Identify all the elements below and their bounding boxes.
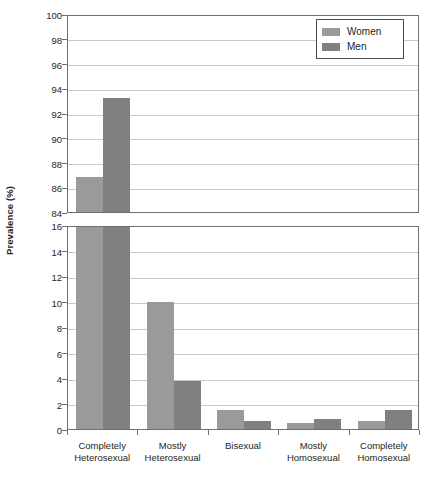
x-tick-mark <box>278 430 279 435</box>
y-tick-mark <box>62 404 67 405</box>
x-category-label-line: Heterosexual <box>137 452 207 464</box>
y-tick-mark <box>62 114 67 115</box>
y-tick-label: 2 <box>22 400 62 410</box>
y-tick-mark <box>62 302 67 303</box>
y-tick-label: 10 <box>22 298 62 308</box>
y-tick-label: 90 <box>22 134 62 144</box>
x-tick-mark <box>67 430 68 435</box>
x-tick-mark <box>137 430 138 435</box>
bar-men-4 <box>385 410 412 429</box>
y-tick-mark <box>62 89 67 90</box>
gridline <box>68 90 418 91</box>
legend-item-men: Men <box>322 39 398 54</box>
x-category-label-2: Bisexual <box>208 440 278 452</box>
y-tick-label: 8 <box>22 324 62 334</box>
x-category-label-line: Mostly <box>278 440 348 452</box>
x-category-label-line: Homosexual <box>349 452 419 464</box>
x-category-label-line: Heterosexual <box>67 452 137 464</box>
x-tick-mark <box>349 430 350 435</box>
legend-item-women: Women <box>322 24 398 39</box>
y-tick-label: 16 <box>22 222 62 232</box>
y-tick-label: 94 <box>22 85 62 95</box>
bar-women-1 <box>147 302 174 430</box>
y-tick-label: 88 <box>22 159 62 169</box>
x-category-label-4: CompletelyHomosexual <box>349 440 419 463</box>
bar-women-0 <box>76 177 103 212</box>
y-axis-title: Prevalence (%) <box>0 0 18 440</box>
gridline <box>68 65 418 66</box>
y-tick-mark <box>62 15 67 16</box>
y-tick-mark <box>62 39 67 40</box>
x-category-label-0: CompletelyHeterosexual <box>67 440 137 463</box>
x-category-label-line: Completely <box>67 440 137 452</box>
bar-men-3 <box>314 419 341 429</box>
y-tick-mark <box>62 163 67 164</box>
bar-men-1 <box>174 381 201 429</box>
legend: Women Men <box>316 19 404 59</box>
x-category-label-1: MostlyHeterosexual <box>137 440 207 463</box>
y-axis-title-text: Prevalence (%) <box>4 186 15 255</box>
y-tick-mark <box>62 277 67 278</box>
y-tick-mark <box>62 251 67 252</box>
chart-figure: Prevalence (%) Women Men 848688909294969… <box>0 0 427 480</box>
bar-men-2 <box>244 421 271 429</box>
x-category-label-line: Homosexual <box>278 452 348 464</box>
y-tick-label: 4 <box>22 375 62 385</box>
bar-men-0 <box>103 226 130 429</box>
y-tick-mark <box>62 64 67 65</box>
lower-plot-panel <box>67 226 419 430</box>
y-tick-label: 0 <box>22 426 62 436</box>
y-tick-label: 100 <box>22 11 62 21</box>
x-category-label-line: Mostly <box>137 440 207 452</box>
legend-label-men: Men <box>347 41 366 52</box>
y-tick-label: 84 <box>22 209 62 219</box>
legend-swatch-men-icon <box>322 43 340 51</box>
x-category-label-line: Bisexual <box>208 440 278 452</box>
bar-women-4 <box>358 421 385 429</box>
legend-label-women: Women <box>347 26 381 37</box>
y-tick-label: 12 <box>22 273 62 283</box>
y-tick-mark <box>62 328 67 329</box>
legend-swatch-women-icon <box>322 28 340 36</box>
x-tick-mark <box>419 430 420 435</box>
y-tick-mark <box>62 138 67 139</box>
y-tick-label: 14 <box>22 247 62 257</box>
x-category-label-3: MostlyHomosexual <box>278 440 348 463</box>
y-tick-label: 96 <box>22 60 62 70</box>
y-tick-label: 92 <box>22 110 62 120</box>
y-tick-mark <box>62 213 67 214</box>
x-category-label-line: Completely <box>349 440 419 452</box>
y-tick-mark <box>62 226 67 227</box>
y-tick-label: 86 <box>22 184 62 194</box>
y-tick-label: 98 <box>22 35 62 45</box>
y-tick-mark <box>62 188 67 189</box>
bar-women-3 <box>287 423 314 429</box>
y-tick-mark <box>62 353 67 354</box>
bar-women-2 <box>217 410 244 429</box>
y-tick-label: 6 <box>22 349 62 359</box>
y-tick-mark <box>62 379 67 380</box>
x-tick-mark <box>208 430 209 435</box>
bar-men-0 <box>103 98 130 212</box>
bar-women-0 <box>76 226 103 429</box>
